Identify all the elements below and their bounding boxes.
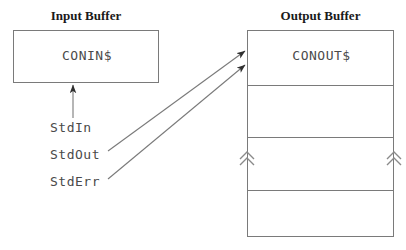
console-buffer-diagram: Input Buffer CONIN$ Output Buffer CONOUT… <box>0 0 406 250</box>
conout-buffer-label: CONOUT$ <box>248 48 395 63</box>
conin-buffer-label: CONIN$ <box>14 48 160 63</box>
stream-label-stdout: StdOut <box>50 147 100 162</box>
output-row-divider <box>248 85 393 86</box>
input-buffer-title: Input Buffer <box>13 8 159 24</box>
scroll-up-chevron-right-icon <box>385 148 403 168</box>
stream-label-stdin: StdIn <box>50 120 92 135</box>
stream-label-stderr: StdErr <box>50 174 100 189</box>
scroll-up-chevron-left-icon <box>238 148 256 168</box>
output-row-divider <box>248 190 393 191</box>
output-buffer-title: Output Buffer <box>247 8 394 24</box>
input-buffer-box: CONIN$ <box>13 30 159 83</box>
output-row-divider <box>248 137 393 138</box>
output-buffer-box: CONOUT$ <box>247 30 394 237</box>
